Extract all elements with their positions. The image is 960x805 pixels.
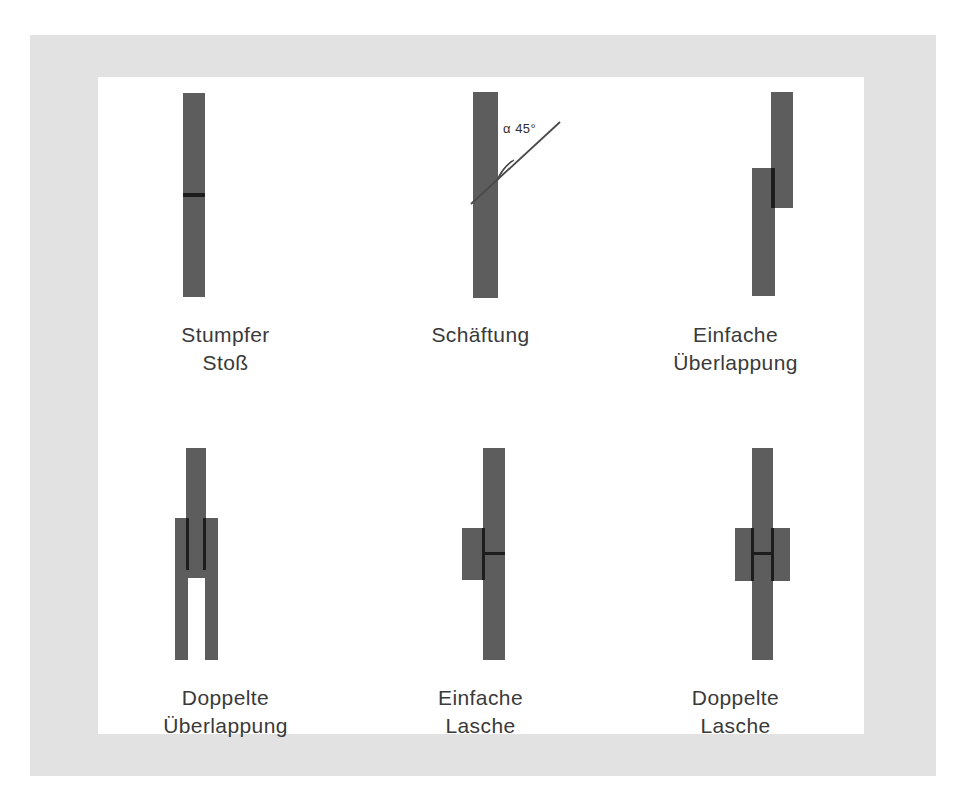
caption-line-2: Überlappung [608, 349, 863, 377]
single-lap-seam [771, 168, 775, 208]
joint-butt-joint: Stumpfer Stoß [98, 77, 353, 317]
joint-double-lap-joint: Doppelte Überlappung [98, 440, 353, 680]
double-lap-joint-drawing [98, 440, 353, 680]
caption-line-1: Schäftung [353, 321, 608, 349]
joint-single-strap-joint: Einfache Lasche [353, 440, 608, 680]
single-lap-joint-drawing [608, 77, 863, 317]
double-strap-joint-drawing [608, 440, 863, 680]
scarf-joint-bar [473, 92, 498, 298]
joint-caption: Doppelte Lasche [608, 684, 863, 739]
joint-caption: Stumpfer Stoß [98, 321, 353, 376]
joint-caption: Einfache Überlappung [608, 321, 863, 376]
joint-caption: Schäftung [353, 321, 608, 349]
double-lap-prong-left [175, 570, 188, 660]
caption-line-2: Lasche [608, 712, 863, 740]
caption-line-1: Einfache [608, 321, 863, 349]
scarf-angle-label: α 45° [503, 121, 536, 136]
single-strap-joint-drawing [353, 440, 608, 680]
caption-line-1: Doppelte [98, 684, 353, 712]
scarf-joint-drawing: α 45° [353, 77, 608, 317]
double-lap-seam-right [203, 518, 206, 570]
double-lap-overlap-block [175, 518, 218, 570]
joint-scarf-joint: α 45° Schäftung [353, 77, 608, 317]
single-strap-seam-horizontal [482, 552, 505, 555]
caption-line-2: Lasche [353, 712, 608, 740]
drawing-panel: Stumpfer Stoß α 45° Schäftung [98, 77, 864, 734]
joint-caption: Doppelte Überlappung [98, 684, 353, 739]
caption-line-1: Stumpfer [98, 321, 353, 349]
butt-joint-seam [183, 193, 205, 197]
joint-double-strap-joint: Doppelte Lasche [608, 440, 863, 680]
joint-caption: Einfache Lasche [353, 684, 608, 739]
caption-line-1: Doppelte [608, 684, 863, 712]
double-lap-prong-right [205, 570, 218, 660]
double-strap-seam-horizontal [751, 552, 774, 555]
caption-line-2: Überlappung [98, 712, 353, 740]
caption-line-2: Stoß [98, 349, 353, 377]
joint-single-lap-joint: Einfache Überlappung [608, 77, 863, 317]
single-strap-plate [462, 528, 484, 580]
caption-line-1: Einfache [353, 684, 608, 712]
butt-joint-drawing [98, 77, 353, 317]
joint-types-figure: Stumpfer Stoß α 45° Schäftung [0, 0, 960, 805]
double-lap-seam-left [186, 518, 189, 570]
